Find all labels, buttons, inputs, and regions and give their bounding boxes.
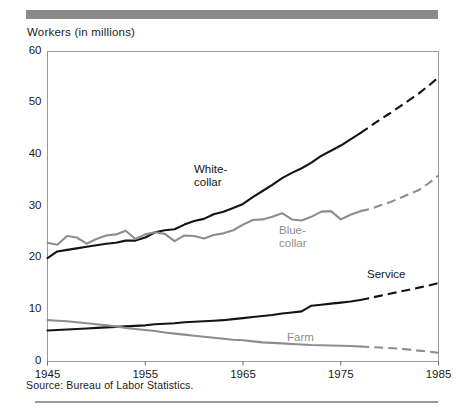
series-label-line: Blue- <box>279 224 306 237</box>
figure-container: Workers (in millions) 0102030405060 1945… <box>0 0 460 409</box>
series-label-farm: Farm <box>287 331 314 344</box>
series-label-line: Farm <box>287 331 314 344</box>
series-label-service: Service <box>367 268 405 281</box>
x-axis-tick-label: 1985 <box>417 368 460 380</box>
x-axis-tick-label: 1945 <box>26 368 70 380</box>
x-axis-tick-label: 1975 <box>319 368 363 380</box>
x-axis-tick-label: 1955 <box>123 368 167 380</box>
series-label-blue-collar: Blue-collar <box>279 224 306 250</box>
y-axis-tick-label: 0 <box>18 354 42 366</box>
y-axis-tick-label: 60 <box>18 44 42 56</box>
series-line-actual <box>48 211 361 245</box>
source-note: Source: Bureau of Labor Statistics. <box>26 379 194 391</box>
series-white-collar <box>48 77 439 258</box>
series-label-white-collar: White-collar <box>194 163 227 189</box>
series-line-projected <box>360 176 438 212</box>
series-service <box>48 283 439 331</box>
y-axis-tick-label: 30 <box>18 199 42 211</box>
x-axis-tick-label: 1965 <box>221 368 265 380</box>
series-line-projected <box>360 283 438 300</box>
series-line-projected <box>360 347 438 353</box>
chart-plot-area <box>0 0 460 409</box>
series-farm <box>48 320 439 353</box>
series-line-projected <box>360 77 438 133</box>
series-line-actual <box>48 300 361 330</box>
series-label-line: Service <box>367 268 405 281</box>
y-axis-tick-label: 40 <box>18 147 42 159</box>
y-axis-tick-label: 10 <box>18 302 42 314</box>
series-label-line: collar <box>194 176 227 189</box>
series-blue-collar <box>48 176 439 245</box>
series-label-line: White- <box>194 163 227 176</box>
bottom-divider-rule <box>35 401 438 403</box>
series-label-line: collar <box>279 237 306 250</box>
y-axis-tick-label: 20 <box>18 250 42 262</box>
y-axis-tick-label: 50 <box>18 95 42 107</box>
